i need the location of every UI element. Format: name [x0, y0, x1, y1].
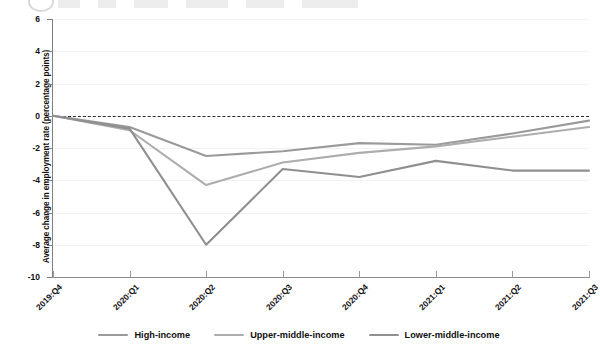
legend-label: Upper-middle-income — [250, 330, 344, 340]
legend-line-swatch — [214, 334, 244, 336]
legend-label: Lower-middle-income — [405, 330, 500, 340]
series-line — [53, 116, 589, 185]
legend-item[interactable]: Lower-middle-income — [369, 330, 500, 340]
legend-label: High-income — [134, 330, 190, 340]
legend-item[interactable]: High-income — [98, 330, 190, 340]
chart-legend: High-incomeUpper-middle-incomeLower-midd… — [0, 330, 598, 340]
legend-line-swatch — [369, 334, 399, 336]
legend-line-swatch — [98, 334, 128, 336]
legend-item[interactable]: Upper-middle-income — [214, 330, 344, 340]
